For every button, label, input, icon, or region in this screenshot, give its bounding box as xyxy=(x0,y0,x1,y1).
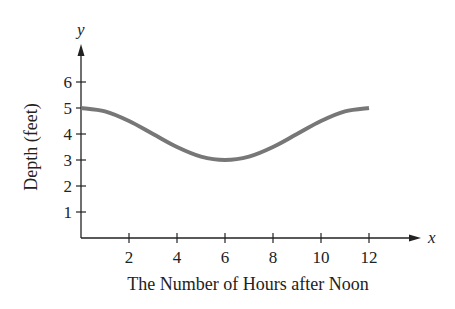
x-axis-title: The Number of Hours after Noon xyxy=(127,274,368,294)
y-tick-labels: 1 2 3 4 5 6 xyxy=(64,73,73,222)
y-tick-label: 1 xyxy=(64,203,73,222)
x-tick-label: 4 xyxy=(173,248,182,267)
x-tick-label: 2 xyxy=(125,248,134,267)
x-tick-label: 6 xyxy=(221,248,230,267)
y-tick-label: 3 xyxy=(64,151,73,170)
y-tick-label: 5 xyxy=(64,99,73,118)
y-axis-title: Depth (feet) xyxy=(21,103,42,190)
x-axis-symbol: x xyxy=(427,228,436,247)
x-tick-labels: 2 4 6 8 10 12 xyxy=(125,248,378,267)
x-axis-arrow-icon xyxy=(409,235,421,242)
y-axis-symbol: y xyxy=(75,20,85,39)
y-tick-label: 2 xyxy=(64,177,73,196)
x-tick-label: 12 xyxy=(361,248,378,267)
depth-chart: y x 2 4 6 8 10 12 1 2 3 4 5 6 Depth (fee… xyxy=(0,0,455,309)
depth-curve xyxy=(81,108,369,160)
x-tick-label: 10 xyxy=(313,248,330,267)
y-tick-label: 6 xyxy=(64,73,73,92)
y-tick-label: 4 xyxy=(64,125,73,144)
y-axis-arrow-icon xyxy=(78,44,85,56)
x-tick-label: 8 xyxy=(269,248,278,267)
